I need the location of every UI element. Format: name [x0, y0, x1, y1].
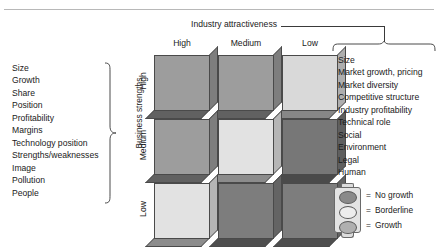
cell-top-face [218, 183, 274, 239]
list-item: Image [12, 162, 104, 174]
list-item: Strengths/weaknesses [12, 149, 104, 161]
list-item: Human [338, 166, 438, 178]
list-item: Environment [338, 141, 438, 153]
industry-attractiveness-leader-line [281, 26, 384, 27]
legend-lamp-borderline [339, 206, 357, 219]
list-item: People [12, 187, 104, 199]
legend-row: = No growth [366, 187, 413, 202]
matrix-row-header-medium-wrap: Medium [136, 119, 150, 175]
list-item: Competitive structure [338, 91, 438, 103]
list-item: Profitability [12, 112, 104, 124]
list-item: Share [12, 87, 104, 99]
list-item: Position [12, 99, 104, 111]
list-item: Margins [12, 124, 104, 136]
cell-base-face [145, 238, 210, 247]
list-item: Pollution [12, 174, 104, 186]
list-item: Size [12, 62, 104, 74]
legend-label: Growth [375, 220, 402, 230]
legend-label: No growth [375, 190, 413, 200]
list-item: Technical role [338, 116, 438, 128]
cell-base-face [273, 238, 338, 247]
cell-top-face [282, 119, 338, 175]
top-divider-rule [4, 9, 434, 10]
matrix-column-header-low: Low [282, 38, 338, 48]
legend-row: = Growth [366, 218, 413, 233]
matrix-row-header-high-wrap: High [136, 55, 150, 111]
legend-row: = Borderline [366, 202, 413, 217]
cell-top-face [282, 183, 338, 239]
legend-equals-sign: = [366, 220, 375, 230]
cell-top-face [218, 119, 274, 175]
cell-top-face [282, 55, 338, 111]
matrix-row-header-low-wrap: Low [136, 183, 150, 239]
list-item: Social [338, 129, 438, 141]
matrix-column-header-high: High [154, 38, 210, 48]
list-item: Growth [12, 74, 104, 86]
industry-attractiveness-axis-label: Industry attractiveness [191, 19, 277, 29]
cell-top-face [154, 55, 210, 111]
legend-label: Borderline [375, 205, 413, 215]
legend-lamp-no-growth [339, 191, 357, 204]
cell-top-face [154, 119, 210, 175]
list-item: Market diversity [338, 79, 438, 91]
business-strengths-axis-label-wrap: Business strengths [116, 62, 130, 204]
legend-rows: = No growth = Borderline = Growth [366, 187, 413, 233]
list-item: Legal [338, 154, 438, 166]
legend-equals-sign: = [366, 190, 375, 200]
matrix-row-header-low: Low [138, 181, 148, 237]
business-strengths-criteria-list: Size Growth Share Position Profitability… [12, 62, 104, 199]
industry-attractiveness-brace-icon [332, 40, 436, 52]
matrix-row-header-medium: Medium [138, 117, 148, 173]
list-item: Industry profitability [338, 104, 438, 116]
list-item: Technology position [12, 137, 104, 149]
legend-lamp-growth [339, 221, 357, 234]
cell-top-face [154, 183, 210, 239]
industry-attractiveness-criteria-list: Size Market growth, pricing Market diver… [338, 54, 438, 179]
cell-top-face [218, 55, 274, 111]
list-item: Market growth, pricing [338, 66, 438, 78]
matrix-row-header-high: High [138, 53, 148, 109]
list-item: Size [338, 54, 438, 66]
cell-base-face [209, 238, 274, 247]
legend-equals-sign: = [366, 205, 375, 215]
matrix-column-header-medium: Medium [218, 38, 274, 48]
directional-policy-matrix-diagram: Size Growth Share Position Profitability… [0, 0, 438, 247]
